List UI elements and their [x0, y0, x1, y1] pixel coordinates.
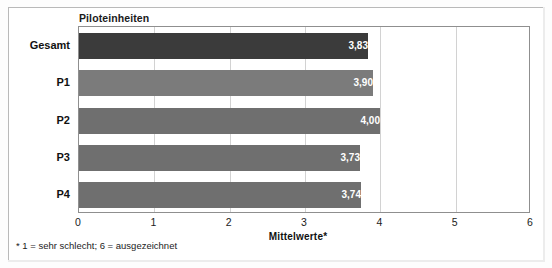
- x-axis-title-text: Mittelwerte*: [269, 231, 328, 242]
- category-label-p2: P2: [0, 107, 70, 133]
- x-tick-1: 1: [140, 216, 166, 228]
- bar-value-label: 3,73: [79, 145, 365, 171]
- x-tick-0: 0: [65, 216, 91, 228]
- bar-row: 3,74: [79, 182, 530, 208]
- figure-root: Piloteinheiten GesamtP1P2P3P4 3,833,904,…: [0, 0, 552, 268]
- category-label-p3: P3: [0, 144, 70, 170]
- x-tick-6: 6: [517, 216, 543, 228]
- footnote: * 1 = sehr schlecht; 6 = ausgezeichnet: [16, 240, 177, 251]
- x-tick-2: 2: [216, 216, 242, 228]
- bar-value-label: 3,90: [79, 70, 378, 96]
- bar-value-label: 3,74: [79, 182, 366, 208]
- category-label-p1: P1: [0, 69, 70, 95]
- bar-row: 4,00: [79, 108, 530, 134]
- category-label-p4: P4: [0, 181, 70, 207]
- bar-value-label: 4,00: [79, 108, 385, 134]
- bar-row: 3,83: [79, 33, 530, 59]
- x-tick-3: 3: [291, 216, 317, 228]
- x-tick-5: 5: [442, 216, 468, 228]
- chart-title: Piloteinheiten: [79, 12, 149, 24]
- plot-area: 3,833,904,003,733,74: [78, 26, 530, 213]
- bar-row: 3,73: [79, 145, 530, 171]
- x-tick-4: 4: [366, 216, 392, 228]
- category-label-gesamt: Gesamt: [0, 32, 70, 58]
- bar-value-label: 3,83: [79, 33, 373, 59]
- bar-row: 3,90: [79, 70, 530, 96]
